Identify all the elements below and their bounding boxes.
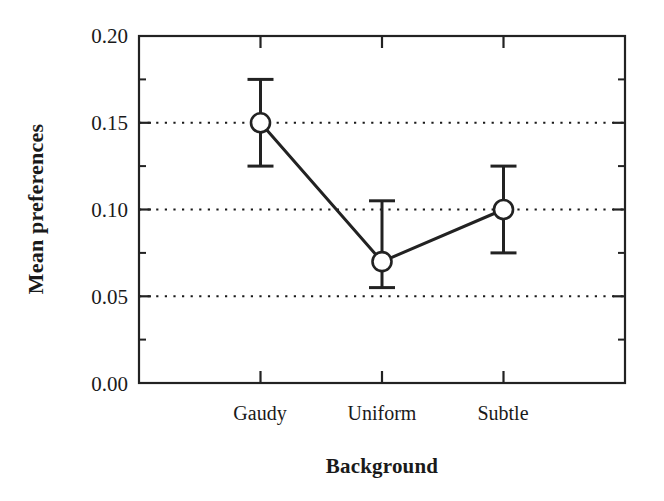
x-tick-label-subtle: Subtle xyxy=(423,402,583,425)
data-point-gaudy xyxy=(251,113,270,132)
x-axis-title: Background xyxy=(139,454,625,479)
chart-figure: Mean preferences 0.20 0.15 0.10 0.05 0.0… xyxy=(0,0,664,501)
x-axis-tick-labels: Gaudy Uniform Subtle xyxy=(0,402,664,432)
data-point-subtle xyxy=(494,200,513,219)
data-point-uniform xyxy=(373,252,392,271)
